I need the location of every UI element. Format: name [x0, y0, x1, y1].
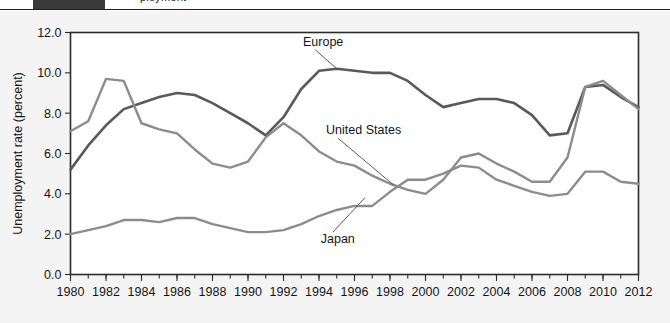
- x-tick-label: 2012: [625, 285, 653, 299]
- y-axis-tick-labels: 12.010.08.06.04.02.00.0: [37, 26, 61, 282]
- header-cropped-text: ployment: [140, 0, 186, 3]
- x-tick-label: 2006: [518, 285, 546, 299]
- x-tick-label: 1998: [376, 285, 404, 299]
- y-tick-label: 12.0: [37, 26, 61, 40]
- series-label-united-states: United States: [326, 123, 401, 137]
- x-tick-label: 2010: [589, 285, 617, 299]
- x-axis-major-ticks: [71, 275, 639, 282]
- x-tick-label: 2004: [483, 285, 511, 299]
- header-rule: [0, 9, 670, 10]
- y-axis-title: Unemployment rate (percent): [11, 72, 25, 235]
- y-tick-label: 4.0: [44, 187, 61, 201]
- x-axis-tick-labels: 1980198219841986198819901992199419961998…: [57, 285, 653, 299]
- x-tick-label: 1982: [92, 285, 120, 299]
- y-tick-label: 6.0: [44, 147, 61, 161]
- x-tick-label: 1988: [199, 285, 227, 299]
- x-tick-label: 2000: [412, 285, 440, 299]
- y-tick-label: 10.0: [37, 66, 61, 80]
- series-label-europe: Europe: [303, 35, 343, 49]
- x-tick-label: 2002: [447, 285, 475, 299]
- x-tick-label: 1990: [234, 285, 262, 299]
- x-tick-label: 1980: [57, 285, 85, 299]
- cropped-header-strip: ployment: [0, 0, 670, 11]
- unemployment-line-chart: 12.010.08.06.04.02.00.0 1980198219841986…: [0, 11, 670, 323]
- series-label-japan: Japan: [321, 232, 355, 246]
- x-tick-label: 1992: [270, 285, 298, 299]
- chart-figure: 12.010.08.06.04.02.00.0 1980198219841986…: [0, 11, 670, 323]
- x-tick-label: 2008: [554, 285, 582, 299]
- y-tick-label: 2.0: [44, 228, 61, 242]
- y-tick-label: 0.0: [44, 268, 61, 282]
- header-dark-bar: [33, 0, 105, 9]
- x-tick-label: 1984: [128, 285, 156, 299]
- x-tick-label: 1986: [163, 285, 191, 299]
- x-tick-label: 1994: [305, 285, 333, 299]
- figure-page: ployment 12.010.08.06.04.02.00.0 1980198…: [0, 0, 670, 323]
- y-axis-ticks: [65, 33, 71, 275]
- x-tick-label: 1996: [341, 285, 369, 299]
- y-tick-label: 8.0: [44, 107, 61, 121]
- chart-figure-background: 12.010.08.06.04.02.00.0 1980198219841986…: [0, 11, 670, 323]
